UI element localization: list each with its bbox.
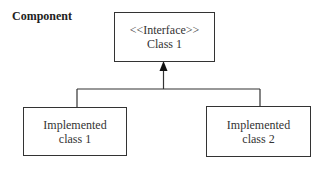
interface-stereotype: <<Interface>> [130, 23, 200, 37]
implemented-class-1-box: Implemented class 1 [23, 107, 127, 156]
implemented-class-1-line2: class 1 [59, 132, 91, 146]
interface-class-box: <<Interface>> Class 1 [114, 12, 215, 62]
interface-class-name: Class 1 [147, 37, 182, 51]
implemented-class-2-line2: class 2 [242, 132, 274, 146]
arrowhead-icon [160, 61, 168, 71]
implemented-class-1-line1: Implemented [43, 118, 106, 132]
implemented-class-2-box: Implemented class 2 [206, 106, 311, 157]
implemented-class-2-line1: Implemented [227, 118, 290, 132]
